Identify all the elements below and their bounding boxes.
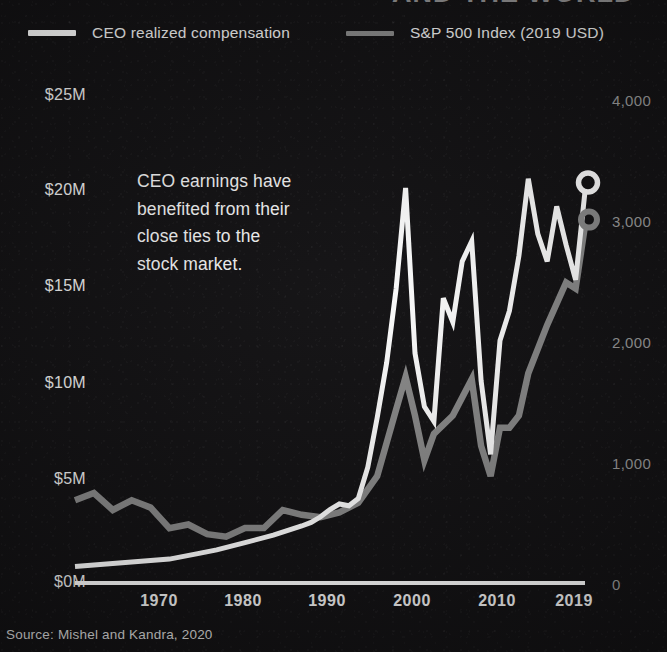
series-line-sp500 xyxy=(75,226,585,537)
endpoint-marker-ceo xyxy=(579,173,598,192)
source-credit: Source: Mishel and Kandra, 2020 xyxy=(6,627,213,642)
endpoint-marker-sp500 xyxy=(581,212,597,228)
chart-plot-area xyxy=(0,0,667,652)
